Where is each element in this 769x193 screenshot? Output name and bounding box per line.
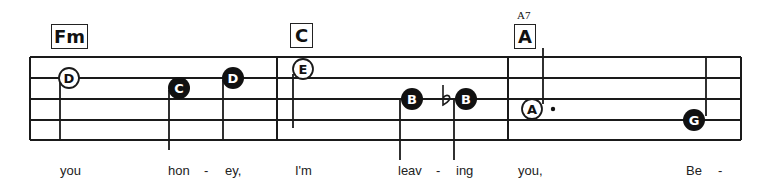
note-letter: D xyxy=(64,71,75,86)
staff: DCDEBBAG xyxy=(0,0,769,193)
lyric-syllable: ey, xyxy=(225,163,241,178)
note-letter: B xyxy=(407,92,417,107)
note-letter: D xyxy=(228,71,239,86)
lyric-syllable: hon xyxy=(168,163,190,178)
chord-box: Fm xyxy=(51,24,88,49)
lyric-hyphen: - xyxy=(436,163,440,178)
chord-box: A xyxy=(514,24,536,49)
note-letter: E xyxy=(299,62,308,77)
augmentation-dot xyxy=(551,107,555,111)
lyric-hyphen: - xyxy=(204,163,208,178)
note-letter: G xyxy=(689,113,700,128)
note-letter: B xyxy=(461,92,471,107)
note-letter: A xyxy=(527,102,537,117)
flat-icon xyxy=(443,85,450,105)
sheet-music: DCDEBBAG FmCAA7 youhon-ey,I'mleav-ingyou… xyxy=(0,0,769,193)
lyric-syllable: ing xyxy=(456,163,473,178)
note-letter: C xyxy=(174,81,184,96)
chord-name-label: A7 xyxy=(517,9,530,21)
lyric-syllable: you xyxy=(60,163,81,178)
lyric-syllable: I'm xyxy=(295,163,312,178)
lyric-syllable: Be xyxy=(686,163,702,178)
chord-box: C xyxy=(290,23,313,48)
lyric-hyphen: - xyxy=(718,163,722,178)
lyric-syllable: you, xyxy=(518,163,543,178)
lyric-syllable: leav xyxy=(398,163,422,178)
